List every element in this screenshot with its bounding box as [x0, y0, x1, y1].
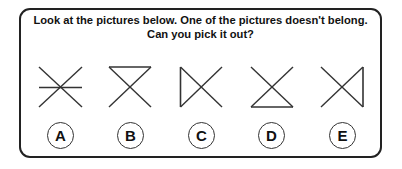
option-e-button[interactable]: E	[329, 122, 356, 149]
option-a-button[interactable]: A	[47, 122, 74, 149]
figure-c	[180, 66, 224, 108]
question-line-2: Can you pick it out?	[19, 28, 382, 42]
x-with-horizontal-line-icon	[39, 66, 83, 108]
figure-e	[321, 66, 365, 108]
option-d-button[interactable]: D	[258, 122, 285, 149]
figure-d	[251, 66, 295, 108]
x-with-bottom-line-icon	[251, 66, 295, 108]
option-b-button[interactable]: B	[117, 122, 144, 149]
figure-a	[39, 66, 83, 108]
x-with-left-line-icon	[180, 66, 224, 108]
question-line-1: Look at the pictures below. One of the p…	[19, 14, 382, 28]
x-with-top-line-icon	[109, 66, 153, 108]
option-c-button[interactable]: C	[188, 122, 215, 149]
figure-b	[109, 66, 153, 108]
x-with-right-line-icon	[321, 66, 365, 108]
question-text: Look at the pictures below. One of the p…	[19, 14, 382, 41]
